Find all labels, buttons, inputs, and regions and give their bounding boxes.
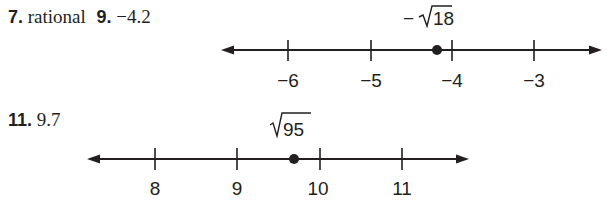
right-arrow-icon (456, 155, 469, 164)
number-line-2 (87, 113, 469, 170)
point-marker (289, 154, 299, 164)
number-lines: − 18 −6 −5 −4 −3 95 8 9 10 11 (0, 0, 610, 218)
left-arrow-icon (87, 155, 100, 164)
tick-label: −6 (277, 70, 299, 91)
tick-label: 10 (307, 178, 328, 199)
tick-label: 9 (232, 178, 243, 199)
tick-label: 11 (392, 178, 412, 199)
tick-label: −4 (441, 70, 463, 91)
right-arrow-icon (589, 46, 602, 55)
tick-label: −3 (523, 70, 545, 91)
point-label-radicand: 18 (433, 8, 454, 29)
point-label-radicand: 95 (283, 119, 304, 140)
tick-label: 8 (150, 178, 161, 199)
left-arrow-icon (221, 46, 234, 55)
point-label-minus: − (403, 8, 414, 29)
tick-label: −5 (360, 70, 382, 91)
point-marker (432, 45, 442, 55)
